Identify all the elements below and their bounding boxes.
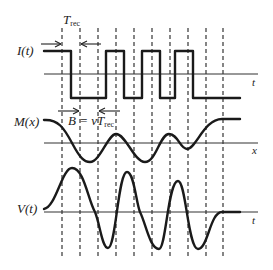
current-axis-t-label: t: [252, 76, 256, 88]
magnetization-axis-x-label: x: [251, 144, 257, 156]
trec-label: Trec: [63, 12, 80, 28]
voltage-axis-t-label: t: [252, 214, 256, 226]
voltage-waveform: [44, 168, 240, 249]
magnetization-label: M(x): [13, 114, 39, 129]
magnetic-recording-diagram: Trec I(t) t B = vTrec M(x) x V(t) t: [0, 0, 273, 270]
voltage-label: V(t): [17, 201, 37, 216]
current-label: I(t): [16, 43, 34, 58]
trec-dimension-arrows: [41, 41, 101, 47]
bitlength-label: B = vTrec: [68, 113, 114, 129]
